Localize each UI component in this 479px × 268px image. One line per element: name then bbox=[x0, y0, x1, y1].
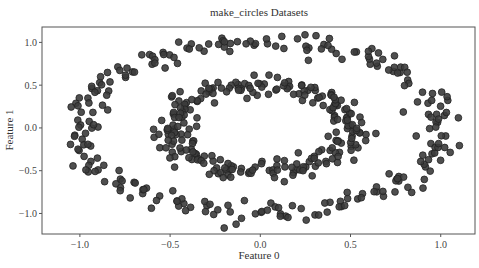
y-tick-label: 0.5 bbox=[25, 80, 38, 91]
y-tick-label: −0.5 bbox=[19, 165, 37, 176]
plot-frame bbox=[42, 27, 475, 234]
chart-title: make_circles Datasets bbox=[210, 6, 308, 18]
y-tick-label: −1.0 bbox=[19, 208, 37, 219]
x-tick-label: 1.0 bbox=[434, 239, 447, 250]
x-tick-label: −0.5 bbox=[161, 239, 179, 250]
scatter-points bbox=[67, 31, 463, 231]
y-tick-label: 0.0 bbox=[25, 122, 38, 133]
y-tick-label: 1.0 bbox=[25, 37, 38, 48]
y-axis-label: Feature 1 bbox=[3, 109, 15, 150]
x-tick-label: −1.0 bbox=[71, 239, 89, 250]
x-tick-label: 0.5 bbox=[344, 239, 357, 250]
scatter-chart: make_circles Datasets −1.0−0.50.00.51.0 … bbox=[0, 0, 479, 268]
x-axis-label: Feature 0 bbox=[238, 249, 280, 261]
x-axis-ticks: −1.0−0.50.00.51.0 bbox=[71, 234, 447, 250]
y-axis-ticks: −1.0−0.50.00.51.0 bbox=[19, 37, 42, 219]
